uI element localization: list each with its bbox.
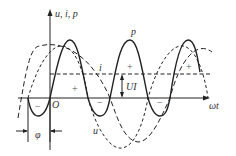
negative-sign: −: [35, 101, 41, 112]
current-curve-i: [18, 45, 212, 142]
power-waveform-diagram: u, i, p ωt O p i u UI φ + + + − − −: [0, 0, 236, 156]
x-axis-label: ωt: [209, 100, 219, 111]
phase-label: φ: [35, 129, 41, 140]
p-curve-label: p: [130, 26, 136, 37]
ui-arrow-up-icon: [120, 74, 124, 80]
u-curve-label: u: [93, 125, 98, 136]
average-power-arrow: [120, 74, 124, 98]
origin-label: O: [52, 99, 59, 110]
positive-sign: +: [186, 61, 192, 72]
y-axis-arrow-icon: [48, 9, 53, 16]
i-curve-label: i: [99, 62, 102, 73]
negative-sign: −: [97, 97, 103, 108]
negative-sign: −: [157, 97, 163, 108]
average-power-label: UI: [126, 81, 137, 92]
positive-sign: +: [127, 61, 133, 72]
phase-arrow-right-icon: [50, 129, 55, 133]
phase-arrow-left-icon: [23, 129, 28, 133]
ui-arrow-down-icon: [120, 92, 124, 98]
y-axis-label: u, i, p: [55, 8, 78, 19]
positive-sign: +: [72, 83, 78, 94]
